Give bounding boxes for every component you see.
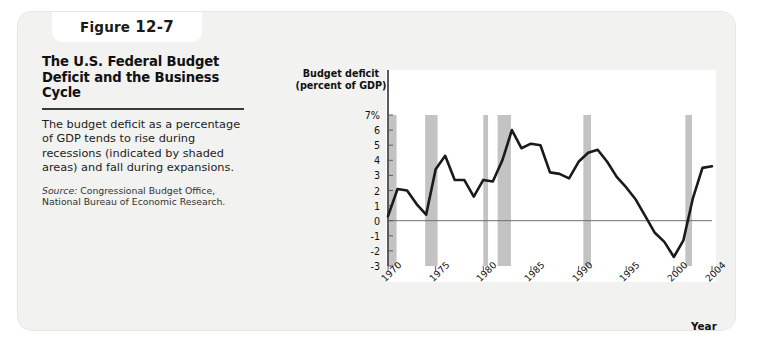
- x-axis-tick-label: 1975: [427, 259, 452, 284]
- x-axis-tick-label: 2004: [703, 259, 728, 284]
- x-axis-title: Year: [691, 320, 717, 332]
- x-axis-tick-label: 1985: [522, 259, 547, 284]
- figure-card: Figure 12-7 The U.S. Federal Budget Defi…: [18, 12, 735, 330]
- x-axis-tick-labels: 19701975198019851990199520002004: [18, 12, 759, 343]
- x-axis-tick-label: 1990: [570, 259, 595, 284]
- x-axis-tick-label: 1995: [617, 259, 642, 284]
- x-axis-tick-label: 1980: [474, 259, 499, 284]
- x-axis-tick-label: 1970: [379, 259, 404, 284]
- x-axis-tick-label: 2000: [665, 259, 690, 284]
